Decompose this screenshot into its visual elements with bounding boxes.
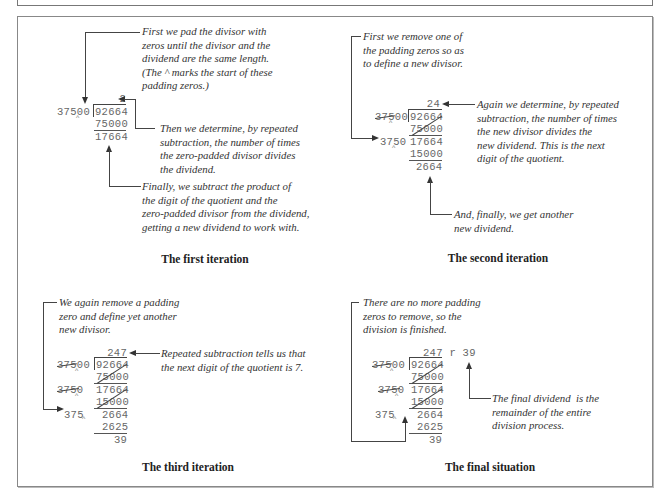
remainder: 39 [429, 434, 442, 446]
connector-line [135, 353, 160, 354]
connector-line [351, 36, 352, 139]
padding-caret: ^ [76, 114, 79, 121]
arrow-right-icon [57, 406, 64, 412]
divisor: 375 [64, 409, 84, 421]
division-bracket [94, 357, 95, 370]
division-bracket [409, 357, 410, 370]
connector-line [448, 104, 475, 105]
padding-caret: ^ [75, 392, 78, 399]
caption-first-iteration: The first iteration [105, 253, 305, 265]
connector-line [351, 302, 359, 303]
product: 2625 [417, 421, 443, 433]
note-remainder: The final dividend is the remainder of t… [492, 392, 599, 433]
previous-figure-box [17, 0, 653, 6]
connector-line [43, 409, 58, 410]
note-pad-divisor: First we pad the divisor with zeros unti… [142, 25, 273, 93]
caption-second-iteration: The second iteration [398, 252, 598, 264]
connector-line [351, 302, 352, 442]
division-bracket [408, 109, 442, 110]
padding-caret: ^ [395, 392, 398, 399]
arrow-up-icon [402, 416, 408, 423]
new-dividend: 17664 [95, 131, 128, 143]
dividend: 2664 [102, 409, 128, 421]
connector-line [85, 32, 86, 98]
connector-line [430, 181, 431, 215]
note-repeated-subtraction: Again we determine, by repeated subtract… [477, 98, 619, 166]
connector-line [405, 421, 406, 442]
connector-line [43, 302, 57, 303]
padding-caret: ^ [75, 367, 78, 374]
new-dividend: 39 [114, 434, 127, 446]
dividend: 17664 [410, 136, 443, 148]
note-subtract-product: Finally, we subtract the product of the … [142, 180, 309, 234]
divisor: 375 [375, 409, 395, 421]
connector-line [135, 99, 136, 129]
padding-caret: ^ [389, 119, 392, 126]
product: 15000 [410, 148, 443, 160]
caption-final-situation: The final situation [390, 461, 590, 473]
divisor: 37500 [57, 106, 90, 118]
arrow-right-icon [372, 135, 379, 141]
division-bracket [409, 357, 442, 358]
division-bracket [94, 357, 127, 358]
dividend: 92664 [95, 106, 128, 118]
connector-line [135, 128, 155, 129]
note-no-more-padding: There are no more padding zeros to remov… [363, 296, 481, 337]
connector-line [469, 367, 470, 399]
connector-line [85, 32, 140, 33]
division-bracket [93, 104, 126, 105]
note-remove-padding: First we remove one of the padding zeros… [363, 30, 464, 71]
note-new-dividend: And, finally, we get another new dividen… [454, 208, 573, 235]
division-bracket [93, 104, 94, 117]
division-bracket [408, 109, 409, 122]
arrow-down-icon [82, 97, 88, 104]
connector-line [469, 398, 491, 399]
note-next-digit: Repeated subtraction tells us that the n… [161, 347, 306, 374]
connector-line [109, 150, 110, 187]
connector-line [430, 214, 452, 215]
padding-caret: ^ [393, 415, 396, 422]
caption-third-iteration: The third iteration [88, 461, 288, 473]
connector-line [351, 36, 361, 37]
padding-caret: ^ [82, 415, 85, 422]
padding-caret: ^ [392, 144, 395, 151]
connector-line [109, 186, 141, 187]
padding-caret: ^ [390, 367, 393, 374]
connector-line [351, 441, 405, 442]
new-dividend: 2664 [416, 161, 442, 173]
connector-line [351, 138, 373, 139]
product: 2625 [102, 421, 128, 433]
dividend: 2664 [417, 409, 443, 421]
note-repeated-subtraction: Then we determine, by repeated subtracti… [160, 122, 300, 176]
connector-line [43, 302, 44, 410]
note-remove-padding: We again remove a padding zero and defin… [59, 296, 179, 337]
product: 75000 [95, 118, 128, 130]
